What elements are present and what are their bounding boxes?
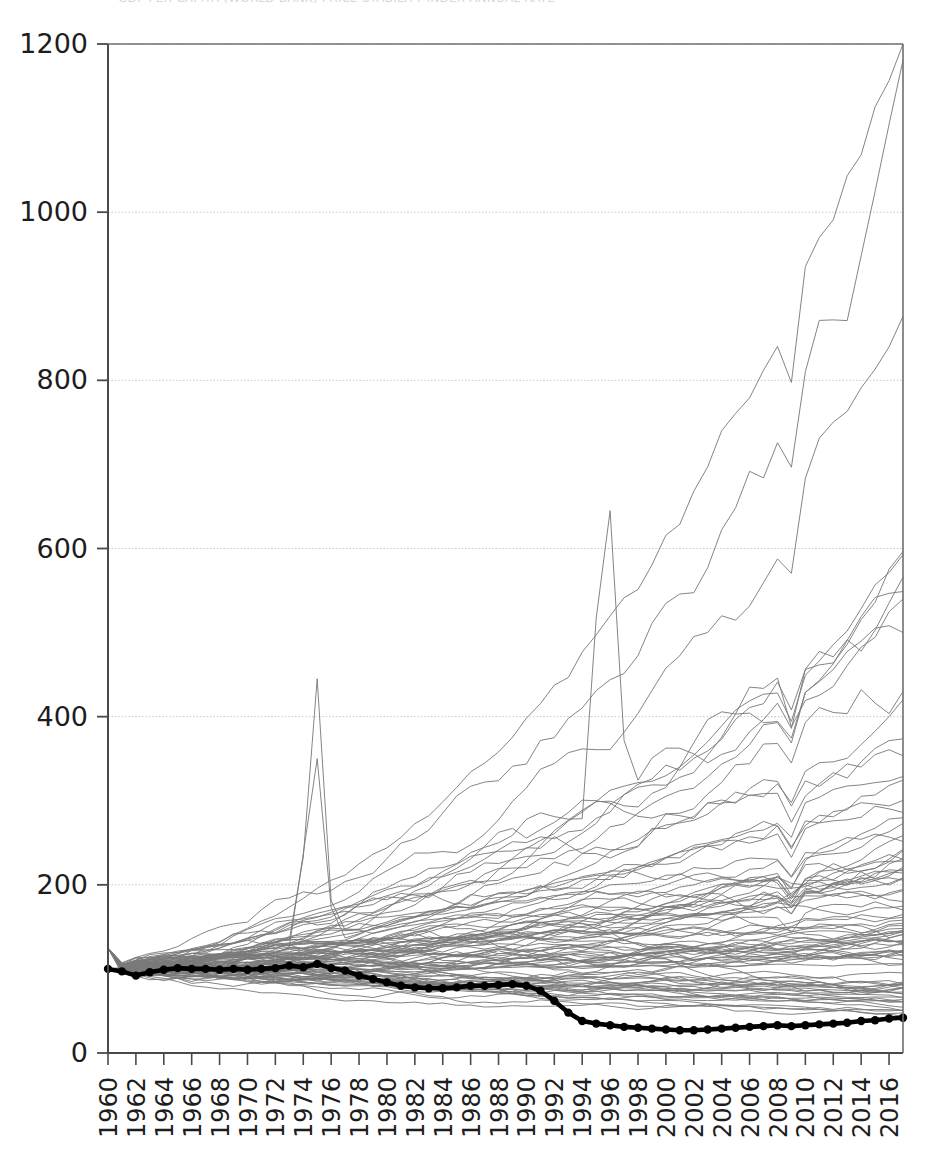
highlight-marker [383,978,391,986]
highlight-marker [439,984,447,992]
highlight-marker [745,1023,753,1031]
highlight-marker [285,961,293,969]
highlight-marker [466,982,474,990]
plot-area: 020040060080010001200 196019621964196619… [0,0,938,1153]
highlight-marker [550,997,558,1005]
highlight-marker [494,981,502,989]
highlight-marker [313,960,321,968]
series-line [108,750,903,967]
x-axis-tick-label: 1976 [318,1077,346,1138]
highlight-marker [229,965,237,973]
y-axis-tick-label: 600 [36,533,88,564]
x-axis-tick-label: 1964 [151,1077,179,1138]
background-series-group [108,44,903,1016]
x-axis-tick-label: 1990 [513,1077,541,1138]
x-axis-tick-label: 1998 [625,1077,653,1138]
highlight-marker [299,963,307,971]
highlight-marker [271,964,279,972]
highlight-marker [132,971,140,979]
highlight-marker [425,984,433,992]
highlight-marker [857,1017,865,1025]
highlight-marker [885,1014,893,1022]
y-axis-tick-label: 200 [36,869,88,900]
highlight-marker [564,1008,572,1016]
x-axis-tick-label: 1970 [235,1077,263,1138]
highlight-marker [815,1020,823,1028]
highlight-marker [759,1022,767,1030]
x-axis-tick-label: 1968 [207,1077,235,1138]
highlight-marker [174,964,182,972]
highlight-marker [480,982,488,990]
highlight-marker [731,1024,739,1032]
highlight-marker [369,975,377,983]
chart-figure: GDP PER CAPITA (WORLD BANK) PRICE STABIL… [0,0,938,1153]
highlight-marker [829,1019,837,1027]
axes-group [97,44,903,1065]
highlight-marker [718,1024,726,1032]
x-axis-tick-label: 1980 [374,1077,402,1138]
highlight-marker [592,1019,600,1027]
y-axis-tick-label: 800 [36,364,88,395]
highlight-marker [215,966,223,974]
y-axis-tick-label: 1200 [19,28,88,59]
highlight-marker [341,966,349,974]
highlight-marker [160,966,168,974]
gridlines-group [108,44,903,885]
x-axis-tick-label: 1996 [597,1077,625,1138]
highlight-marker [843,1019,851,1027]
highlight-marker [355,971,363,979]
x-axis-tick-label: 2010 [792,1077,820,1138]
highlight-marker [606,1021,614,1029]
y-axis-tick-label: 400 [36,701,88,732]
x-axis-tick-label: 2012 [820,1077,848,1138]
highlight-marker [662,1025,670,1033]
x-axis-tick-label: 1966 [179,1077,207,1138]
series-line [108,44,903,967]
line-chart-svg: 020040060080010001200 196019621964196619… [0,0,938,1153]
x-axis-tick-label: 1960 [95,1077,123,1138]
x-axis-tick-label: 2008 [765,1077,793,1138]
highlight-marker [397,982,405,990]
x-axis-tick-label: 1984 [430,1077,458,1138]
highlight-marker [327,964,335,972]
x-axis-tick-label: 1988 [486,1077,514,1138]
highlight-marker [257,965,265,973]
highlight-marker [118,967,126,975]
highlight-marker [508,980,516,988]
highlight-marker [648,1024,656,1032]
x-axis-tick-label: 1992 [541,1077,569,1138]
x-axis-tick-label: 1974 [290,1077,318,1138]
highlight-marker [578,1017,586,1025]
highlight-marker [536,987,544,995]
x-axis-tick-label: 2000 [653,1077,681,1138]
highlight-marker [871,1016,879,1024]
x-axis-tick-label: 1982 [402,1077,430,1138]
highlight-marker [453,983,461,991]
x-axis-tick-label: 1972 [262,1077,290,1138]
highlight-marker [146,968,154,976]
x-axis-tick-label: 2016 [876,1077,904,1138]
highlight-marker [522,982,530,990]
x-axis-tick-label: 2002 [681,1077,709,1138]
x-axis-tick-label: 2014 [848,1077,876,1138]
highlight-marker [411,983,419,991]
highlight-marker [634,1024,642,1032]
highlight-series-group [104,960,907,1035]
highlight-marker [188,965,196,973]
highlight-marker [201,965,209,973]
series-line [108,552,903,967]
highlight-marker [620,1023,628,1031]
x-axis-tick-labels: 1960196219641966196819701972197419761978… [95,1077,904,1138]
highlight-marker [787,1022,795,1030]
highlight-marker [243,966,251,974]
y-axis-tick-label: 1000 [19,196,88,227]
highlight-marker [690,1026,698,1034]
x-axis-tick-label: 1994 [569,1077,597,1138]
highlight-marker [773,1021,781,1029]
x-axis-tick-label: 2006 [737,1077,765,1138]
highlight-marker [801,1021,809,1029]
highlight-marker [676,1026,684,1034]
y-axis-tick-labels: 020040060080010001200 [19,28,88,1068]
highlight-marker [704,1025,712,1033]
y-axis-tick-label: 0 [71,1037,88,1068]
